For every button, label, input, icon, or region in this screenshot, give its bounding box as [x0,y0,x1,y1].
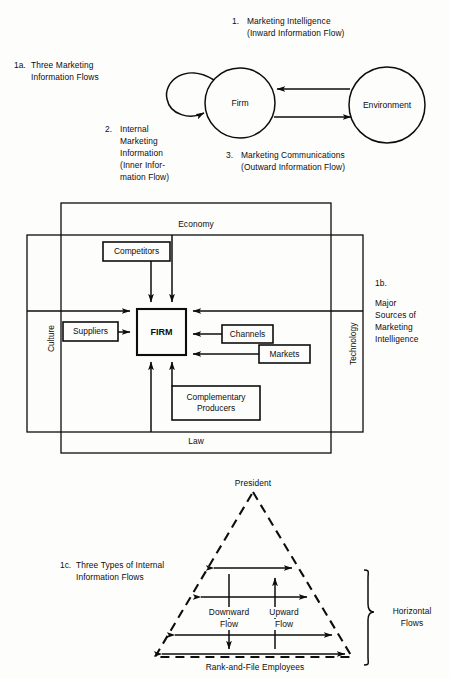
panel-b-caption-line2: Sources of [375,310,416,321]
panel-b-caption-line1: Major [375,298,396,309]
panel-a-caption-line1: Three Marketing [31,60,93,71]
panel-b-caption-line4: Intelligence [375,334,419,345]
rank-and-file-employees-label: Rank-and-File Employees [190,662,320,673]
panel-c-caption-line2: Information Flows [76,572,144,583]
internal-flow-loop-arrow [167,73,214,116]
culture-frame-label: Culture [46,325,56,352]
downward-flow-label-line2: Flow [197,619,261,630]
complementary-producers-box-label-line2: Producers [172,403,260,414]
upward-flow-label-line2: Flow [258,619,310,630]
president-label: President [213,478,293,489]
organization-triangle [155,492,352,657]
panel-a-flow3-number: 3. [226,150,233,161]
law-frame-label: Law [151,436,241,447]
environment-circle-label: Environment [350,100,424,110]
panel-a-flow2-title-line3: Information [120,148,163,159]
panel-b-caption-key: 1b. [375,278,387,289]
panel-a-flow3-subtitle: (Outward Information Flow) [241,162,345,173]
panel-c-caption-key: 1c. [60,560,71,571]
suppliers-box-label: Suppliers [63,326,118,337]
panel-a-caption-key: 1a. [14,60,26,71]
horizontal-flows-bracket-label-line1: Horizontal [381,606,443,617]
horizontal-flows-bracket-label-line2: Flows [381,618,443,629]
channels-box-label: Channels [222,329,273,340]
firm-circle-label: Firm [210,98,270,108]
panel-c-caption-line1: Three Types of Internal [76,560,164,571]
upward-flow-label-line1: Upward [258,607,310,618]
panel-c-graphics [155,492,374,665]
panel-a-flow1-title: Marketing Intelligence [247,16,331,27]
competitors-box-label: Competitors [103,246,170,257]
downward-flow-label-line1: Downward [197,607,261,618]
technology-frame-label: Technology [348,323,358,365]
markets-box-label: Markets [259,349,310,360]
economy-frame-label: Economy [151,219,241,230]
panel-a-caption-line2: Information Flows [31,72,99,83]
panel-a-flow2-title-line2: Marketing [120,136,158,147]
horizontal-flows-bracket [364,570,374,665]
firm-box-label: FIRM [137,327,186,337]
figure-page: 1. Marketing Intelligence (Inward Inform… [0,0,449,678]
panel-a-flow2-number: 2. [105,124,112,135]
panel-a-flow3-title: Marketing Communications [241,150,345,161]
panel-a-flow2-subtitle-line1: (Inner Infor- [120,160,165,171]
panel-a-flow1-subtitle: (Inward Information Flow) [247,28,344,39]
panel-a-flow2-subtitle-line2: mation Flow) [120,172,169,183]
panel-a-flow1-number: 1. [232,16,239,27]
panel-a-flow2-title-line1: Internal [120,124,149,135]
panel-b-caption-line3: Marketing [375,322,413,333]
complementary-producers-box-label-line1: Complementary [172,392,260,403]
